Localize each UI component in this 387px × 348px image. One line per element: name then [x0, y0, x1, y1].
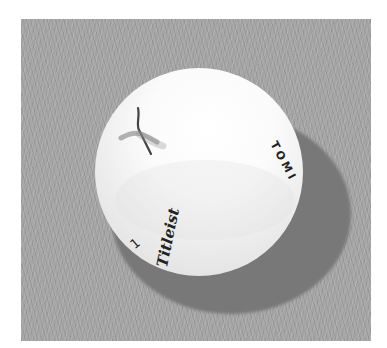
- scuff-mark-icon: [121, 108, 163, 154]
- ball-markings: [95, 68, 303, 276]
- grass-background: TOMI 1 Titleist: [21, 19, 371, 341]
